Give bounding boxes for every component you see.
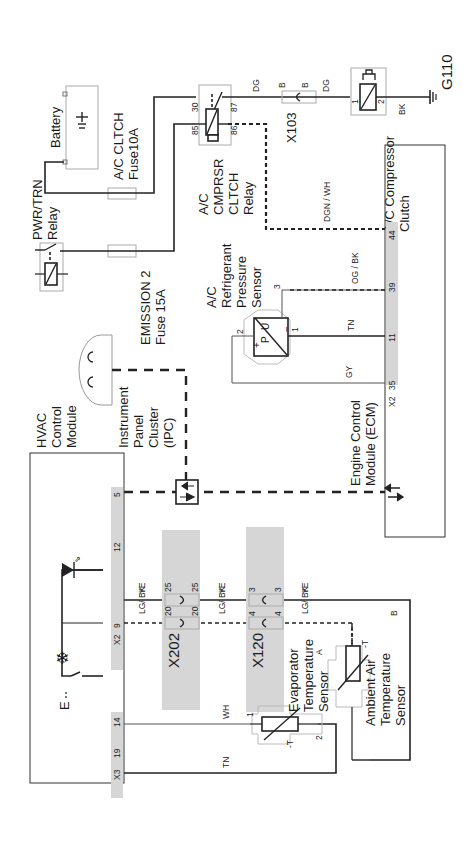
hvac-pin-19: 19 xyxy=(112,748,122,758)
ac-clutch-fuse-label: A/C CLTCH Fuse10A xyxy=(111,109,141,180)
evap-t: -T xyxy=(285,740,295,748)
relay-pin-30: 30 xyxy=(190,102,200,112)
evap-pin-1: 1 xyxy=(245,712,255,717)
sensor-pin-2: 2 xyxy=(235,329,245,334)
relay-pin-87: 87 xyxy=(229,102,239,112)
emission-2-fuse-label: EMISSION 2 Fuse 15A xyxy=(138,267,168,345)
x202-pin-20a: 20 xyxy=(163,606,173,616)
wire-tn-2: TN xyxy=(221,757,231,768)
hvac-pin-14: 14 xyxy=(112,717,122,727)
wire-lgbk-2: LG/ BK xyxy=(217,586,227,614)
clutch-pin-2: 2 xyxy=(376,99,386,104)
battery-label: Battery xyxy=(48,106,63,148)
instrument-panel-cluster: Instrument Panel Cluster (IPC) xyxy=(79,335,176,448)
ac-compressor-clutch-relay: 30 85 87 86 A/C CMPRSR CLTCH Relay xyxy=(190,85,256,215)
ecm-label: Engine Control Module (ECM) xyxy=(348,396,378,486)
clutch-pin-1: 1 xyxy=(350,99,360,104)
hvac-x3: X3 xyxy=(112,769,122,780)
hvac-pin-9: 9 xyxy=(112,623,122,628)
emission-2-fuse: EMISSION 2 Fuse 15A xyxy=(108,245,168,345)
ac-clutch-fuse: A/C CLTCH Fuse10A xyxy=(108,109,141,199)
hvac-pin-5: 5 xyxy=(112,492,122,497)
ground-label: G110 xyxy=(438,54,455,90)
x120-pin-3b: 3 xyxy=(273,587,283,592)
ac-clutch-label: A/C Compressor Clutch xyxy=(382,132,412,232)
x120-pin-4a: 4 xyxy=(247,611,257,616)
switch-e-label: E xyxy=(57,701,72,710)
ecm-pin-11: 11 xyxy=(387,333,397,342)
relay-pin-86: 86 xyxy=(229,125,239,135)
sensor-u: U xyxy=(260,323,271,330)
ambient-t: -T xyxy=(360,640,370,648)
wire-lgbk-1: LG/ BK xyxy=(137,586,147,614)
x202-label: X202 xyxy=(165,633,182,668)
ambient-sensor-label: Ambient Air Temperature Sensor xyxy=(363,649,408,726)
wire-og-bk: OG / BK xyxy=(350,252,360,284)
ecm-pin-35: 35 xyxy=(387,380,397,390)
x103-connector: B B X103 xyxy=(277,82,316,143)
ecm-pin-39: 39 xyxy=(387,282,397,292)
x103-label: X103 xyxy=(284,113,299,143)
x103-pin-b2: B xyxy=(300,82,310,88)
x120-label: X120 xyxy=(249,633,266,668)
wire-gy: GY xyxy=(344,365,354,378)
x120-pin-4b: 4 xyxy=(273,611,283,616)
sensor-pin-3: 3 xyxy=(272,284,282,289)
hvac-label: HVAC Control Module xyxy=(34,402,79,448)
hvac-control-module: HVAC Control Module 5 12 9 X2 14 19 X3 ⇗… xyxy=(30,402,124,798)
x202-pin-25b: 25 xyxy=(190,582,200,592)
sensor-p: P xyxy=(260,336,271,343)
sensor-plus: + xyxy=(251,342,262,348)
wire-dgn-wh: DGN / WH xyxy=(322,182,332,222)
ac-relay-label: A/C CMPRSR CLTCH Relay xyxy=(196,155,256,215)
ground-g110: G110 xyxy=(430,54,455,104)
ecm-x2: X2 xyxy=(387,396,397,407)
serial-data-splice xyxy=(176,480,198,504)
sensor-pin-1: 1 xyxy=(290,327,300,332)
x202-pin-20b: 20 xyxy=(190,606,200,616)
x120-connector: 3 3 4 4 X120 xyxy=(246,527,284,712)
pressure-sensor-label: A/C Refrigerant Pressure Sensor xyxy=(204,240,264,308)
wiring-diagram: Battery A/C CLTCH Fuse10A PWR/TRN Relay … xyxy=(0,0,475,845)
hvac-x2: X2 xyxy=(112,634,122,645)
evap-sensor-label: Evaporator Temperature Sensor xyxy=(286,635,331,712)
wire-lgbk-3: LG/ BK xyxy=(300,586,310,614)
ecm-pin-44: 44 xyxy=(387,230,397,240)
snowflake-icon: ❄ xyxy=(55,649,69,668)
ac-refrigerant-pressure-sensor: P U + − 2 3 1 A/C Refrigerant Pressure S… xyxy=(204,240,300,364)
ipc-label: Instrument Panel Cluster (IPC) xyxy=(116,383,176,448)
x120-pin-3a: 3 xyxy=(247,587,257,592)
wire-dg-2: DG xyxy=(321,79,331,92)
hvac-pin-12: 12 xyxy=(112,542,122,552)
wire-wh: WH xyxy=(221,705,231,719)
wire-dg-1: DG xyxy=(251,79,261,92)
x202-pin-25a: 25 xyxy=(163,582,173,592)
relay-pin-85: 85 xyxy=(190,125,200,135)
x103-pin-b1: B xyxy=(277,82,287,88)
battery: Battery xyxy=(48,86,98,169)
ambient-pin-b: B xyxy=(389,610,399,616)
wire-tn-1: TN xyxy=(346,320,356,331)
ac-compressor-clutch: 1 2 A/C Compressor Clutch xyxy=(350,68,412,232)
led-arrows-icon: ⇗ xyxy=(74,555,81,564)
wire-bk: BK xyxy=(397,103,407,115)
evap-pin-2: 2 xyxy=(314,735,324,740)
x202-connector: 25 25 20 20 X202 xyxy=(162,530,200,710)
